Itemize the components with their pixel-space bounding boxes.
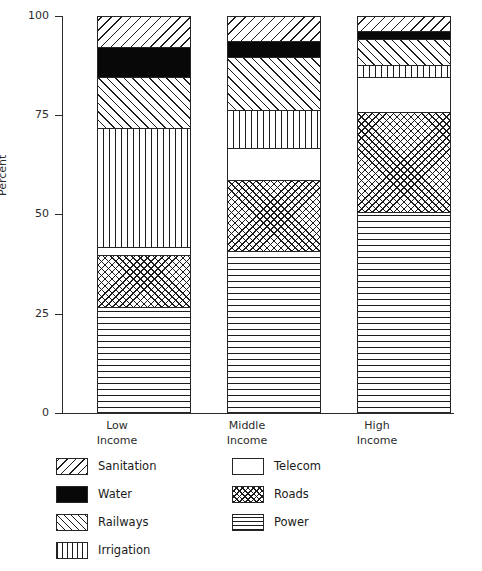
legend-label-telecom: Telecom [274,459,321,473]
x-tick-label-middle-income-line1: Middle [182,418,312,433]
legend-item-irrigation[interactable]: Irrigation [56,539,150,561]
legend-swatch-roads-icon [232,486,264,503]
segment-power-low-income [97,307,191,413]
segment-railways-high-income [357,39,451,65]
y-tick-75: 75 [55,115,62,116]
segment-telecom-high-income [357,77,451,113]
legend-item-roads[interactable]: Roads [232,483,309,505]
y-tick-0: 0 [55,413,62,414]
stacked-bar-chart-figure: Percent 100 75 50 25 0 Low Income Middle… [0,0,482,571]
legend-label-sanitation: Sanitation [98,459,156,473]
segment-power-middle-income [227,251,321,413]
x-axis-line [62,413,454,414]
legend-label-water: Water [98,487,132,501]
legend-item-telecom[interactable]: Telecom [232,455,321,477]
x-tick-label-middle-income-line2: Income [182,433,312,448]
segment-power-high-income [357,212,451,413]
segment-railways-low-income [97,77,191,129]
y-tick-label-100: 100 [28,9,55,22]
segment-roads-middle-income [227,180,321,251]
plot-area [62,16,452,413]
bar-high-income [357,16,451,413]
segment-water-high-income [357,31,451,39]
legend-label-roads: Roads [274,487,309,501]
y-axis-title: Percent [0,155,9,196]
legend-swatch-irrigation-icon [56,542,88,559]
segment-sanitation-low-income [97,17,191,47]
legend-label-irrigation: Irrigation [98,543,150,557]
bar-middle-income [227,16,321,413]
segment-irrigation-high-income [357,65,451,77]
segment-roads-high-income [357,112,451,211]
legend-label-power: Power [274,515,309,529]
y-tick-100: 100 [55,16,62,17]
segment-railways-middle-income [227,57,321,111]
segment-telecom-low-income [97,247,191,255]
x-tick-label-high-income-line1: High [312,418,442,433]
legend-item-railways[interactable]: Railways [56,511,148,533]
legend-swatch-water-icon [56,486,88,503]
y-tick-label-75: 75 [35,108,55,121]
legend-swatch-sanitation-icon [56,458,88,475]
legend-item-power[interactable]: Power [232,511,309,533]
segment-irrigation-low-income [97,128,191,247]
y-tick-label-50: 50 [35,207,55,220]
y-tick-25: 25 [55,314,62,315]
legend-swatch-railways-icon [56,514,88,531]
legend-swatch-power-icon [232,514,264,531]
x-tick-label-low-income-line2: Income [52,433,182,448]
bar-low-income [97,16,191,413]
legend-item-sanitation[interactable]: Sanitation [56,455,156,477]
legend-swatch-telecom-icon [232,458,264,475]
segment-sanitation-high-income [357,17,451,31]
y-tick-50: 50 [55,214,62,215]
x-tick-label-high-income-line2: Income [312,433,442,448]
segment-water-low-income [97,47,191,77]
segment-roads-low-income [97,255,191,307]
segment-sanitation-middle-income [227,17,321,41]
x-tick-label-middle-income: Middle Income [182,418,312,448]
y-tick-label-25: 25 [35,307,55,320]
x-tick-label-low-income-line1: Low [52,418,182,433]
legend-label-railways: Railways [98,515,148,529]
segment-water-middle-income [227,41,321,57]
segment-irrigation-middle-income [227,110,321,148]
chart-legend: SanitationWaterRailwaysIrrigationTelecom… [56,455,386,559]
segment-telecom-middle-income [227,148,321,180]
x-tick-label-low-income: Low Income [52,418,182,448]
legend-item-water[interactable]: Water [56,483,132,505]
x-tick-label-high-income: High Income [312,418,442,448]
